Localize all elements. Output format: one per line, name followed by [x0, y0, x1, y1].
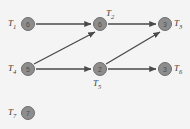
node-value-t1: 6 [26, 21, 30, 28]
node-value-t3: 3 [163, 21, 167, 28]
node-label-t2: T2 [106, 9, 114, 20]
label-subscript: 3 [179, 23, 182, 30]
node-label-t3: T3 [174, 19, 182, 30]
label-subscript: 7 [13, 112, 16, 119]
node-label-t5: T5 [93, 79, 101, 90]
node-t6[interactable]: 3 [158, 62, 172, 76]
node-t2[interactable]: 6 [93, 17, 107, 31]
label-subscript: 6 [179, 68, 182, 75]
node-value-t2: 6 [98, 21, 102, 28]
node-t1[interactable]: 6 [21, 17, 35, 31]
node-label-t7: T7 [8, 108, 16, 119]
label-subscript: 1 [13, 23, 16, 30]
label-subscript: 4 [13, 68, 16, 75]
node-value-t6: 3 [163, 66, 167, 73]
node-value-t7: 7 [26, 110, 30, 117]
node-label-t1: T1 [8, 19, 16, 30]
node-t7[interactable]: 7 [21, 106, 35, 120]
node-t4[interactable]: 5 [21, 62, 35, 76]
node-label-t4: T4 [8, 64, 16, 75]
label-subscript: 5 [98, 83, 101, 90]
node-label-t6: T6 [174, 64, 182, 75]
node-value-t4: 5 [26, 66, 30, 73]
node-value-t5: 2 [98, 66, 102, 73]
node-t3[interactable]: 3 [158, 17, 172, 31]
graph-canvas: 6635237 T1T2T3T4T5T6T7 [0, 0, 190, 129]
edge-t4-to-t2 [34, 32, 95, 64]
edge-t5-to-t3 [106, 32, 160, 64]
label-subscript: 2 [111, 13, 114, 20]
node-t5[interactable]: 2 [93, 62, 107, 76]
